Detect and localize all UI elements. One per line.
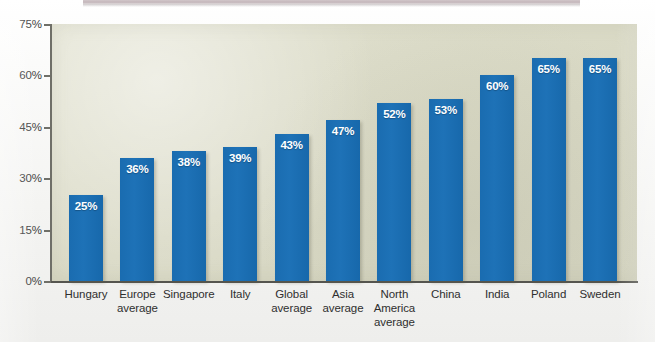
bar-chart: 75% 60% 45% 30% 15% 0% 25% 36% 38% 39% 4… [0, 0, 655, 342]
x-category-label-line: average [358, 315, 430, 329]
x-category-label-line: Sweden [564, 287, 636, 301]
bar-value-label: 47% [326, 125, 360, 137]
y-tick-45 [44, 127, 51, 129]
y-tick-label-30: 30% [0, 172, 42, 184]
y-axis-line [50, 24, 52, 282]
x-category-label-line: America [358, 301, 430, 315]
x-category-label: Sweden [564, 287, 636, 301]
bar-sweden[interactable]: 65% [583, 58, 617, 281]
bar-global-average[interactable]: 43% [275, 134, 309, 281]
bar-value-label: 65% [583, 63, 617, 75]
y-tick-label-0: 0% [0, 275, 42, 287]
bar-value-label: 25% [69, 200, 103, 212]
bar-india[interactable]: 60% [480, 75, 514, 281]
bar-value-label: 36% [120, 163, 154, 175]
bar-europe-average[interactable]: 36% [120, 158, 154, 281]
y-tick-label-45: 45% [0, 121, 42, 133]
bar-asia-average[interactable]: 47% [326, 120, 360, 281]
x-axis-line [50, 281, 638, 283]
y-tick-15 [44, 230, 51, 232]
x-category-label-line: average [101, 301, 173, 315]
bar-value-label: 60% [480, 80, 514, 92]
bar-value-label: 39% [223, 152, 257, 164]
bar-value-label: 43% [275, 139, 309, 151]
y-tick-0 [44, 281, 51, 283]
bar-north-america-average[interactable]: 52% [377, 103, 411, 281]
bar-singapore[interactable]: 38% [172, 151, 206, 281]
y-tick-75 [44, 24, 51, 26]
bar-china[interactable]: 53% [429, 99, 463, 281]
y-tick-label-75: 75% [0, 18, 42, 30]
bar-value-label: 52% [377, 108, 411, 120]
bar-italy[interactable]: 39% [223, 147, 257, 281]
y-tick-60 [44, 75, 51, 77]
y-tick-label-60: 60% [0, 69, 42, 81]
bar-hungary[interactable]: 25% [69, 195, 103, 281]
bar-value-label: 53% [429, 104, 463, 116]
bar-poland[interactable]: 65% [532, 58, 566, 281]
bar-value-label: 38% [172, 156, 206, 168]
y-tick-label-15: 15% [0, 224, 42, 236]
bar-value-label: 65% [532, 63, 566, 75]
y-tick-30 [44, 178, 51, 180]
